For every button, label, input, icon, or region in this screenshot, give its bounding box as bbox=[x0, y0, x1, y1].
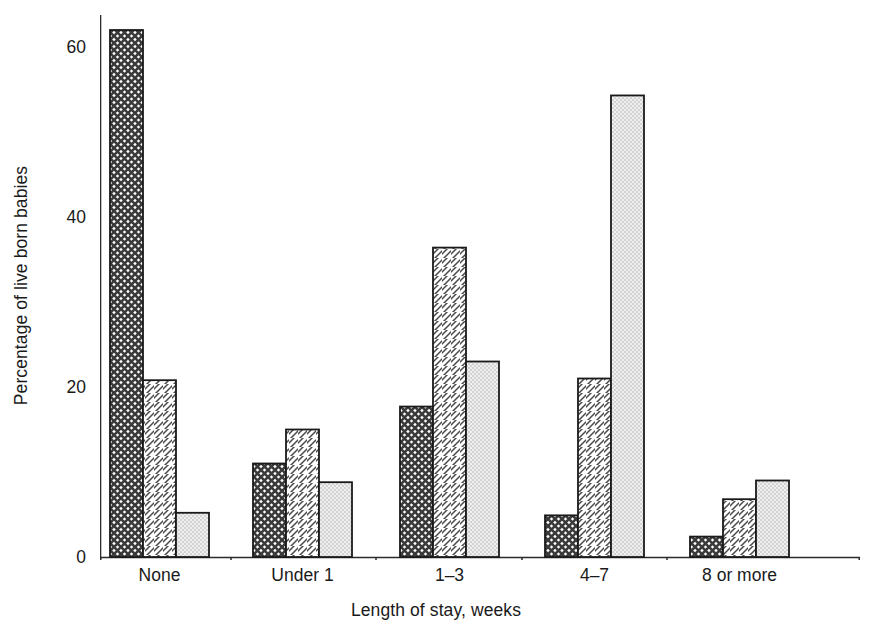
bar bbox=[723, 499, 756, 557]
y-axis-tick-labels: 0204060 bbox=[30, 0, 86, 643]
bar-group bbox=[253, 430, 352, 558]
bars-layer bbox=[110, 30, 789, 557]
bar bbox=[690, 537, 723, 557]
chart-svg bbox=[100, 15, 860, 560]
bar bbox=[286, 430, 319, 558]
bar bbox=[578, 379, 611, 558]
bar-group bbox=[545, 95, 644, 557]
bar-group bbox=[690, 481, 789, 558]
x-axis-title: Length of stay, weeks bbox=[0, 600, 872, 621]
bar bbox=[611, 95, 644, 557]
y-axis-tick-label: 60 bbox=[40, 37, 86, 58]
bar-chart-figure: Percentage of live born babies 0204060 bbox=[0, 0, 872, 643]
x-axis-tick-label: Under 1 bbox=[271, 565, 333, 586]
bar bbox=[110, 30, 143, 557]
y-axis-tick-label: 0 bbox=[40, 547, 86, 568]
x-axis-tick-label: None bbox=[139, 565, 181, 586]
bar bbox=[466, 362, 499, 558]
plot-area bbox=[100, 15, 860, 560]
x-axis-tick-labels: NoneUnder 11–34–78 or more bbox=[100, 565, 860, 595]
bar bbox=[319, 482, 352, 557]
bar bbox=[253, 464, 286, 558]
x-axis-tick-label: 1–3 bbox=[435, 565, 464, 586]
bar bbox=[400, 407, 433, 557]
bar-group bbox=[110, 30, 209, 557]
bar bbox=[756, 481, 789, 558]
bar bbox=[433, 248, 466, 557]
bar bbox=[176, 513, 209, 557]
bar bbox=[545, 515, 578, 557]
y-axis-tick-label: 40 bbox=[40, 207, 86, 228]
bar-group bbox=[400, 248, 499, 557]
x-axis-tick-label: 8 or more bbox=[702, 565, 777, 586]
bar bbox=[143, 380, 176, 557]
y-axis-tick-label: 20 bbox=[40, 377, 86, 398]
x-axis-tick-label: 4–7 bbox=[580, 565, 609, 586]
